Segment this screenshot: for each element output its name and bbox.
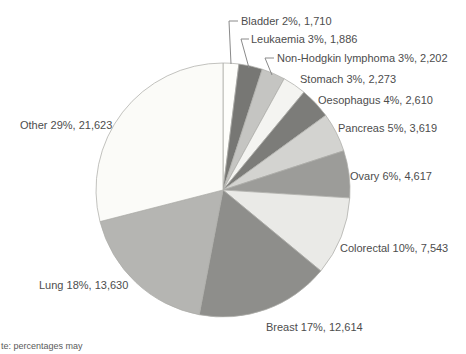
slice-label-ovary: Ovary 6%, 4,617 <box>350 170 432 183</box>
slice-label-bladder: Bladder 2%, 1,710 <box>241 15 332 28</box>
slice-label-pancreas: Pancreas 5%, 3,619 <box>338 122 437 135</box>
slice-label-stomach: Stomach 3%, 2,273 <box>300 73 396 86</box>
slice-label-lung: Lung 18%, 13,630 <box>39 279 128 292</box>
slice-label-non-hodgkin-lymphoma: Non-Hodgkin lymphoma 3%, 2,202 <box>277 52 448 65</box>
leader-line-leukaemia <box>241 39 249 68</box>
slice-label-other: Other 29%, 21,623 <box>20 119 112 132</box>
slice-label-breast: Breast 17%, 12,614 <box>266 321 363 334</box>
pie-chart-figure: Bladder 2%, 1,710 Leukaemia 3%, 1,886 No… <box>0 0 466 354</box>
leader-line-bladder <box>229 21 238 64</box>
footnote-text: te: percentages may <box>1 341 83 352</box>
slice-label-leukaemia: Leukaemia 3%, 1,886 <box>251 33 357 46</box>
slice-label-oesophagus: Oesophagus 4%, 2,610 <box>318 94 433 107</box>
slice-label-colorectal: Colorectal 10%, 7,543 <box>340 242 448 255</box>
